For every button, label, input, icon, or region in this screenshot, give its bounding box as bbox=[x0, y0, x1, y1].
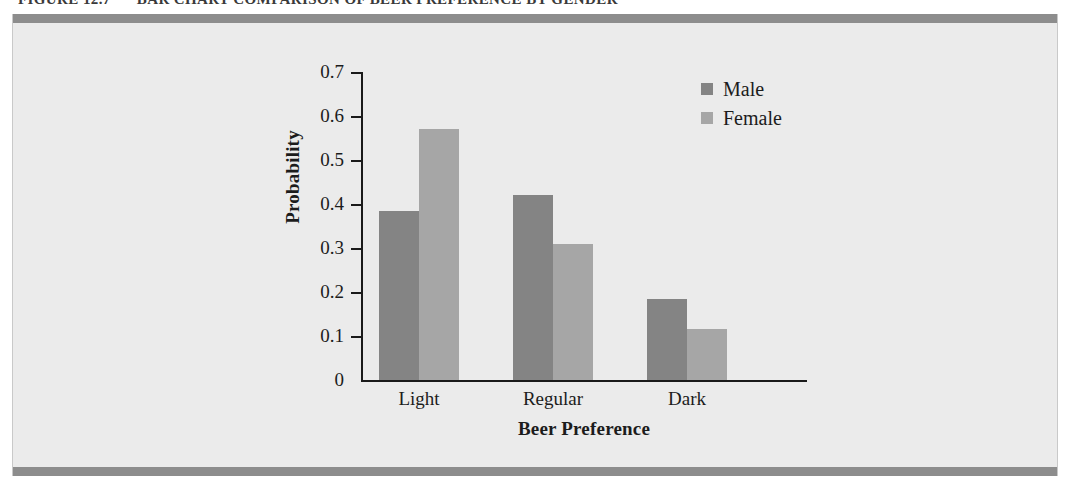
figure-number: FIGURE 12.7 bbox=[18, 0, 111, 7]
x-axis-line bbox=[361, 380, 807, 382]
x-axis-label-dark: Dark bbox=[617, 388, 757, 410]
x-axis-title: Beer Preference bbox=[361, 418, 807, 440]
bar-group bbox=[379, 72, 459, 380]
y-axis-tick-mark bbox=[351, 248, 362, 250]
y-axis-tick-label: 0.5 bbox=[284, 150, 344, 169]
x-axis-label-regular: Regular bbox=[483, 388, 623, 410]
y-axis-tick-label: 0.2 bbox=[284, 282, 344, 301]
bar-male-regular bbox=[513, 195, 553, 380]
y-axis-tick-label: 0.4 bbox=[284, 194, 344, 213]
bar-male-dark bbox=[647, 299, 687, 380]
bar-group bbox=[513, 72, 593, 380]
y-axis-tick-label: 0.3 bbox=[284, 238, 344, 257]
bar-female-regular bbox=[553, 244, 593, 380]
y-axis-tick-mark bbox=[351, 116, 362, 118]
bar-female-light bbox=[419, 129, 459, 380]
y-axis-tick-mark bbox=[351, 336, 362, 338]
y-axis-tick-mark bbox=[351, 204, 362, 206]
y-axis-tick-label: 0.6 bbox=[284, 106, 344, 125]
legend-swatch-male-icon bbox=[701, 83, 713, 95]
bar-male-light bbox=[379, 211, 419, 380]
figure-caption: FIGURE 12.7BAR CHART COMPARISON OF BEER … bbox=[18, 0, 1068, 7]
figure-panel: Probability 00.10.20.30.40.50.60.7 Light… bbox=[12, 14, 1058, 476]
legend-swatch-female-icon bbox=[701, 112, 713, 124]
y-axis-tick-label: 0.1 bbox=[284, 326, 344, 345]
y-axis-tick-mark bbox=[351, 72, 362, 74]
legend-label: Female bbox=[723, 108, 782, 128]
legend-item-male[interactable]: Male bbox=[701, 74, 782, 103]
y-axis-tick-mark bbox=[351, 160, 362, 162]
legend-label: Male bbox=[723, 79, 764, 99]
legend-item-female[interactable]: Female bbox=[701, 103, 782, 132]
bar-chart: Probability 00.10.20.30.40.50.60.7 Light… bbox=[13, 14, 1059, 476]
y-axis-tick-label: 0 bbox=[284, 370, 344, 389]
y-axis-tick-mark bbox=[351, 292, 362, 294]
x-axis-label-light: Light bbox=[349, 388, 489, 410]
bar-female-dark bbox=[687, 329, 727, 380]
y-axis-tick-label: 0.7 bbox=[284, 62, 344, 81]
chart-legend: MaleFemale bbox=[701, 74, 782, 132]
figure-caption-text: BAR CHART COMPARISON OF BEER PREFERENCE … bbox=[137, 0, 618, 7]
